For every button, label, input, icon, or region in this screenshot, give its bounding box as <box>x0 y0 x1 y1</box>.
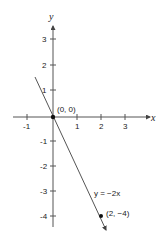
x-axis-label: x <box>150 112 156 123</box>
x-tick-labels: -1 1 2 3 <box>23 122 128 131</box>
svg-text:-3: -3 <box>40 187 48 196</box>
point-2-neg4 <box>99 214 103 218</box>
coordinate-plane: x y -1 1 2 3 3 2 1 -1 -2 -3 -4 (0, 0) y … <box>0 0 164 244</box>
line-y-equals-neg2x <box>35 77 106 230</box>
svg-text:-4: -4 <box>40 212 48 221</box>
svg-text:-2: -2 <box>40 162 48 171</box>
y-tick-labels: 3 2 1 -1 -2 -3 -4 <box>40 35 48 221</box>
equation-label: y = −2x <box>94 189 120 198</box>
svg-text:2: 2 <box>42 61 47 70</box>
svg-text:-1: -1 <box>23 122 31 131</box>
svg-text:-1: -1 <box>40 137 48 146</box>
y-axis-label: y <box>48 11 54 22</box>
svg-text:3: 3 <box>123 122 128 131</box>
origin-point <box>51 115 55 119</box>
origin-label: (0, 0) <box>57 105 76 114</box>
svg-text:1: 1 <box>75 122 80 131</box>
end-point-label: (2, −4) <box>106 209 130 218</box>
svg-text:2: 2 <box>99 122 104 131</box>
svg-text:3: 3 <box>42 35 47 44</box>
